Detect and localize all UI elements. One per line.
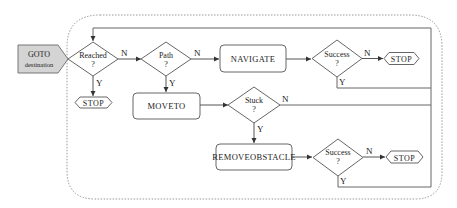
success-decision-navigate: Success ? — [312, 40, 362, 77]
svg-text:Success: Success — [325, 148, 350, 157]
svg-text:?: ? — [91, 60, 95, 69]
stuck-no-label: N — [282, 94, 289, 104]
svg-text:NAVIGATE: NAVIGATE — [231, 54, 275, 64]
stuck-decision: Stuck ? — [228, 87, 280, 123]
remove-success-yes-label: Y — [340, 176, 347, 186]
path-yes-label: Y — [169, 78, 176, 88]
removeobstacle-process: REMOVEOBSTACLE — [212, 144, 295, 170]
goto-label: GOTO — [28, 50, 50, 59]
svg-text:?: ? — [164, 60, 168, 69]
stop-terminal-remove: STOP — [386, 151, 423, 163]
flowchart: GOTO destination Reached ? N Y STOP Path… — [0, 0, 457, 208]
svg-text:Stuck: Stuck — [245, 96, 263, 105]
navigate-success-yes-label: Y — [339, 77, 346, 87]
svg-text:REMOVEOBSTACLE: REMOVEOBSTACLE — [212, 152, 295, 162]
reached-yes-label: Y — [96, 78, 103, 88]
svg-text:?: ? — [336, 157, 340, 166]
path-no-label: N — [194, 48, 201, 58]
success-decision-remove: Success ? — [313, 139, 363, 176]
svg-text:?: ? — [252, 105, 256, 114]
svg-text:Reached: Reached — [79, 51, 107, 60]
stop-terminal-navigate: STOP — [384, 53, 419, 65]
svg-text:Path: Path — [159, 51, 173, 60]
goto-sublabel: destination — [25, 61, 54, 68]
navigate-success-no-label: N — [364, 48, 371, 58]
stuck-yes-label: Y — [257, 124, 264, 134]
svg-text:STOP: STOP — [394, 154, 415, 163]
svg-text:?: ? — [335, 59, 339, 68]
reached-no-label: N — [121, 48, 128, 58]
navigate-process: NAVIGATE — [220, 45, 286, 72]
svg-text:MOVETO: MOVETO — [147, 101, 185, 111]
moveto-process: MOVETO — [133, 93, 200, 119]
reached-decision: Reached ? — [68, 42, 118, 76]
goto-destination-node: GOTO destination — [18, 45, 68, 73]
svg-text:Success: Success — [324, 50, 349, 59]
svg-text:STOP: STOP — [391, 55, 412, 64]
remove-success-yes-line — [338, 88, 431, 187]
remove-success-no-label: N — [366, 146, 373, 156]
stop-terminal-reached: STOP — [75, 97, 112, 108]
svg-text:STOP: STOP — [83, 99, 104, 108]
path-decision: Path ? — [141, 42, 191, 76]
